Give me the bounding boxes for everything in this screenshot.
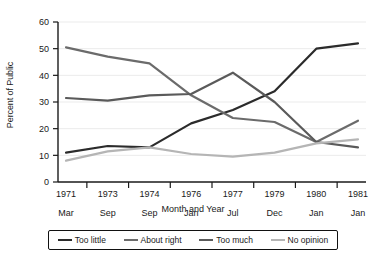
- legend-swatch-icon: [271, 239, 285, 241]
- x-tick-label-year: 1974: [139, 189, 159, 199]
- legend-item-too-much[interactable]: Too much: [199, 235, 253, 245]
- legend-item-no-opinion[interactable]: No opinion: [271, 235, 329, 245]
- x-tick-label-year: 1971: [56, 189, 76, 199]
- y-tick-label: 20: [39, 124, 49, 134]
- legend-label: Too little: [75, 235, 106, 245]
- x-axis-title: Month and Year: [0, 204, 386, 214]
- legend: Too littleAbout rightToo muchNo opinion: [48, 230, 338, 250]
- x-axis-ticks: [87, 182, 337, 188]
- legend-swatch-icon: [124, 239, 138, 241]
- x-axis-title-text: Month and Year: [161, 204, 224, 214]
- y-tick-label: 10: [39, 151, 49, 161]
- x-tick-label-year: 1973: [98, 189, 118, 199]
- legend-item-too-little[interactable]: Too little: [58, 235, 106, 245]
- series-line-no-opinion: [66, 139, 358, 160]
- x-tick-label-year: 1979: [265, 189, 285, 199]
- plot-area: 0102030405060 19711973197419761977197919…: [0, 0, 386, 224]
- legend-label: About right: [141, 235, 182, 245]
- x-tick-label-year: 1981: [348, 189, 368, 199]
- legend-item-about-right[interactable]: About right: [124, 235, 182, 245]
- gridlines: [58, 22, 366, 155]
- x-tick-label-year: 1977: [223, 189, 243, 199]
- legend-label: Too much: [216, 235, 253, 245]
- legend-label: No opinion: [288, 235, 329, 245]
- legend-swatch-icon: [199, 239, 213, 241]
- y-axis-ticks: 0102030405060: [39, 17, 58, 187]
- y-tick-label: 0: [44, 177, 49, 187]
- x-axis-labels: 19711973197419761977197919801981: [56, 189, 368, 199]
- y-tick-label: 50: [39, 44, 49, 54]
- series-line-about-right: [66, 47, 358, 142]
- y-tick-label: 30: [39, 97, 49, 107]
- legend-swatch-icon: [58, 239, 72, 241]
- series-line-too-little: [66, 43, 358, 152]
- x-tick-label-year: 1976: [181, 189, 201, 199]
- series-line-too-much: [66, 73, 358, 148]
- x-tick-label-year: 1980: [306, 189, 326, 199]
- y-tick-label: 40: [39, 71, 49, 81]
- chart-container: Percent of Public 0102030405060 19711973…: [0, 0, 386, 262]
- y-tick-label: 60: [39, 17, 49, 27]
